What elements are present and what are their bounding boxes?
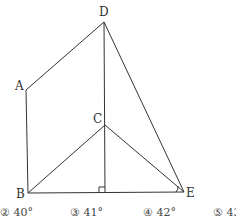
- label-C: C: [93, 113, 102, 125]
- choice-2[interactable]: ② 40°: [0, 207, 33, 219]
- segment-DE: [104, 22, 184, 192]
- geometry-figure: [0, 0, 236, 222]
- choice-4[interactable]: ④ 42°: [143, 207, 176, 219]
- segment-AD: [26, 22, 104, 90]
- segment-CE: [105, 125, 184, 192]
- choice-3[interactable]: ③ 41°: [70, 207, 103, 219]
- segment-CB: [28, 125, 105, 193]
- label-B: B: [16, 188, 25, 200]
- segment-BE: [28, 192, 184, 193]
- label-E: E: [186, 187, 195, 199]
- angle-marker-E: [176, 186, 178, 192]
- segment-AB: [26, 90, 28, 193]
- choice-5[interactable]: ⑤ 43°: [213, 207, 236, 219]
- label-D: D: [99, 6, 109, 18]
- segment-DC: [104, 22, 105, 193]
- label-A: A: [15, 80, 24, 92]
